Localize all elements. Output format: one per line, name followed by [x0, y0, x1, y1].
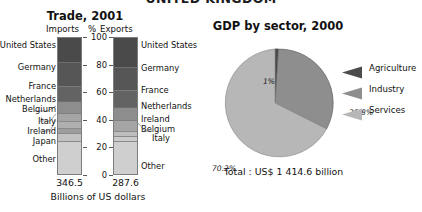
- imports-label-germany: Germany: [18, 63, 56, 72]
- bar-segment-exports-germany: [114, 67, 137, 89]
- exports-label-italy: Italy: [152, 134, 170, 143]
- bar-segment-imports-japan: [58, 133, 81, 140]
- exports-label-other: Other: [141, 162, 165, 171]
- legend-item-agriculture: Agriculture: [341, 62, 421, 83]
- bar-segment-exports-netherlands: [114, 107, 137, 120]
- exports-label-ireland: Ireland: [141, 115, 170, 124]
- legend-item-industry: Industry: [341, 83, 421, 104]
- bar-segment-imports-united-states: [58, 38, 81, 62]
- trade-unit-label: Billions of US dollars: [18, 191, 178, 202]
- axis-tickmark-left-60: [83, 92, 87, 93]
- imports-label-other: Other: [32, 155, 56, 164]
- bar-segment-exports-france: [114, 90, 137, 108]
- exports-label-germany: Germany: [141, 64, 179, 73]
- uk-statistics-figure: UNITED KINGDOM Trade, 2001 Imports % Exp…: [0, 0, 422, 212]
- axis-tick-60: 60: [85, 87, 107, 97]
- axis-tick-100: 100: [85, 32, 107, 42]
- axis-tickmark-left-100: [83, 37, 87, 38]
- axis-tickmark-right-0: [109, 175, 113, 176]
- exports-label-netherlands: Netherlands: [141, 102, 192, 111]
- imports-label-netherlands: Netherlands: [5, 95, 56, 104]
- axis-tick-20: 20: [85, 142, 107, 152]
- bar-segment-exports-other: [114, 141, 137, 174]
- gdp-total-label: Total : US$ 1 414.6 billion: [196, 166, 371, 177]
- axis-tickmark-left-20: [83, 147, 87, 148]
- imports-label-france: France: [28, 82, 56, 91]
- percent-axis: 100 80 60 40 20 0: [83, 37, 113, 175]
- label-text: United States: [141, 40, 197, 50]
- axis-tickmark-left-40: [83, 120, 87, 121]
- imports-total-value: 346.5: [46, 177, 93, 188]
- bar-segment-imports-germany: [58, 62, 81, 85]
- exports-stacked-bar: [113, 37, 138, 175]
- exports-label-united-states: United States: [141, 41, 197, 50]
- imports-label-united-states: United States: [0, 41, 56, 50]
- imports-column-header: Imports: [40, 24, 85, 34]
- axis-tickmark-right-100: [109, 37, 113, 38]
- gdp-pie-chart: 1% 28.8% 70.2%: [216, 48, 334, 158]
- triangle-marker-icon: [341, 85, 363, 104]
- trade-chart-panel: Trade, 2001 Imports % Exports: [0, 0, 196, 212]
- bar-segment-imports-france: [58, 86, 81, 101]
- axis-tick-40: 40: [85, 115, 107, 125]
- imports-label-japan: Japan: [33, 137, 56, 146]
- legend-item-services: Services: [341, 104, 421, 125]
- bar-segment-imports-netherlands: [58, 101, 81, 113]
- gdp-legend: Agriculture Industry Services: [341, 62, 421, 125]
- exports-label-france: France: [141, 86, 169, 95]
- legend-label-agriculture: Agriculture: [369, 63, 416, 73]
- triangle-marker-icon: [341, 106, 363, 125]
- bar-segment-exports-ireland: [114, 120, 137, 130]
- pie-svg: [216, 48, 334, 158]
- imports-label-ireland: Ireland: [27, 127, 56, 136]
- imports-stacked-bar: [57, 37, 82, 175]
- axis-tick-80: 80: [85, 60, 107, 70]
- legend-label-industry: Industry: [369, 84, 404, 94]
- label-text: United States: [0, 40, 56, 50]
- axis-tickmark-right-80: [109, 65, 113, 66]
- axis-tickmark-right-40: [109, 120, 113, 121]
- bar-segment-imports-other: [58, 141, 81, 174]
- gdp-chart-panel: GDP by sector, 2000 1% 28.8% 70.2% Total…: [196, 0, 422, 212]
- legend-label-services: Services: [369, 105, 405, 115]
- axis-tickmark-left-80: [83, 65, 87, 66]
- imports-label-italy: Italy: [38, 117, 56, 126]
- axis-tickmark-right-60: [109, 92, 113, 93]
- bar-segment-exports-united-states: [114, 38, 137, 67]
- axis-tickmark-right-20: [109, 147, 113, 148]
- triangle-marker-icon: [341, 64, 363, 83]
- exports-total-value: 287.6: [102, 177, 149, 188]
- pie-label-agriculture: 1%: [263, 77, 275, 86]
- imports-label-belgium: Belgium: [22, 105, 56, 114]
- axis-tickmark-left-0: [83, 175, 87, 176]
- trade-chart-title: Trade, 2001: [0, 9, 170, 23]
- bar-segment-imports-belgium: [58, 113, 81, 121]
- gdp-chart-title: GDP by sector, 2000: [198, 19, 358, 33]
